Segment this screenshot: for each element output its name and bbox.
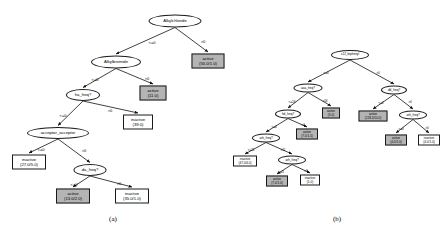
tree-edge: [266, 143, 292, 155]
tree-leaf-active[interactable]: active(11.0): [140, 86, 167, 101]
tree-leaf-inactive[interactable]: inactive(35.0/1.0): [115, 189, 149, 204]
tree-leaf-inactive[interactable]: inactive(47.0/4.0): [233, 156, 257, 167]
node-label: arh_freq?: [406, 113, 419, 116]
edge-label: >4: [301, 123, 304, 127]
node-label: c12_biphenyl: [341, 53, 359, 56]
tree-leaf-active[interactable]: active(3.0): [322, 108, 340, 119]
leaf-counts: (4.0/1.0): [423, 140, 435, 143]
tree-leaf-active[interactable]: active(7.0/1.0): [266, 176, 288, 187]
edge-label: >0: [201, 39, 206, 44]
leaf-counts: (39.0): [133, 122, 144, 126]
node-label: da_freq?: [82, 168, 99, 172]
tree-node-alkylchloride[interactable]: Alkylchloride: [149, 15, 202, 28]
leaf-counts: (5.0): [307, 180, 313, 183]
tree-edge: [90, 176, 132, 187]
edge-label: >3: [304, 169, 307, 173]
tree-leaf-active[interactable]: active(55.0/1.0): [192, 54, 225, 69]
edge-label: <=0: [38, 147, 45, 152]
edge-label: <=4: [271, 125, 276, 129]
tree-leaf-active[interactable]: active(4.0/1.0): [385, 135, 407, 146]
node-label: hd_freq?: [282, 112, 294, 115]
leaf-counts: (7.0/1.0): [271, 181, 283, 184]
edge-label: <=0: [92, 77, 99, 82]
node-label: ha_freq?: [75, 93, 92, 97]
node-label: dd_freq?: [388, 88, 400, 91]
tree-leaf-active[interactable]: active(13.0/2.0): [56, 189, 90, 204]
leaf-counts: (13.0/2.0): [64, 196, 82, 200]
tree-leaf-inactive[interactable]: inactive(5.0): [300, 175, 320, 186]
edge-label: <=11: [248, 148, 255, 152]
tree-node-acceptor-acceptor[interactable]: acceptor_acceptor: [27, 127, 89, 139]
tree-edge: [266, 119, 288, 133]
leaf-counts: (128.0/14.0): [365, 116, 382, 119]
tree-leaf-active[interactable]: active(7.0/1.0): [296, 129, 318, 140]
leaf-counts: (27.0/5.0): [20, 162, 38, 166]
tree-leaf-inactive[interactable]: inactive(39.0): [123, 115, 153, 130]
tree-leaf-inactive[interactable]: inactive(27.0/5.0): [12, 155, 46, 170]
edge-label: >0: [376, 71, 379, 75]
edge-label: >0: [145, 76, 150, 81]
tree-node-da-freq-[interactable]: da_freq?: [74, 164, 107, 176]
tree-edge: [350, 60, 394, 84]
tree-node-arh-freq-[interactable]: arh_freq?: [252, 134, 280, 143]
figure-caption-a: (a): [109, 215, 117, 223]
node-label: arh_freq?: [259, 136, 272, 139]
edge-label: <=2: [378, 101, 383, 105]
tree-node-alkylbromide[interactable]: Alkylbromide: [91, 56, 141, 69]
tree-node-dd-freq-[interactable]: dd_freq?: [381, 86, 407, 95]
tree-leaf-active[interactable]: active(128.0/14.0): [359, 111, 388, 122]
leaf-counts: (11.0): [148, 93, 159, 97]
edge-label: <=0: [71, 182, 78, 187]
edge-label: >0: [108, 108, 113, 113]
node-label: Alkylchloride: [163, 19, 187, 23]
edge-label: >11: [281, 148, 286, 152]
leaf-counts: (35.0/1.0): [123, 196, 141, 200]
edge-label: <=3: [278, 170, 283, 174]
leaf-counts: (55.0/1.0): [199, 61, 217, 65]
edge-label: <=24: [289, 100, 296, 104]
edge-label: >0: [425, 126, 428, 130]
tree-node-arh-freq-[interactable]: arh_freq?: [399, 111, 427, 120]
edge-label: <=0: [398, 127, 403, 131]
leaf-counts: (7.0/1.0): [301, 134, 313, 137]
edge-label: <=0: [60, 113, 67, 118]
edge-label: <=0: [149, 40, 156, 45]
figure-canvas: AlkylchlorideAlkylbromideha_freq?accepto…: [0, 0, 448, 236]
tree-node-arh-freq-[interactable]: arh_freq?: [278, 156, 306, 165]
tree-node-ha-freq-[interactable]: ha_freq?: [66, 89, 100, 101]
edge-label: >0: [82, 148, 87, 153]
tree-edge: [308, 93, 331, 107]
tree-node-c12-biphenyl[interactable]: c12_biphenyl: [331, 50, 369, 60]
node-label: aaa_freq?: [301, 86, 315, 89]
leaf-counts: (4.0/1.0): [390, 140, 402, 143]
tree-leaf-inactive[interactable]: inactive(4.0/1.0): [418, 135, 440, 146]
tree-edge: [308, 60, 350, 82]
edge-label: >4: [408, 100, 411, 104]
node-label: Alkylbromide: [104, 60, 128, 64]
tree-node-hd-freq-[interactable]: hd_freq?: [275, 110, 301, 119]
node-label: arh_freq?: [285, 158, 298, 161]
edge-label: >24: [322, 99, 327, 103]
edge-label: >0: [117, 181, 122, 186]
leaf-counts: (47.0/4.0): [238, 161, 251, 164]
edge-label: <=0: [323, 71, 328, 75]
tree-node-aaa-freq-[interactable]: aaa_freq?: [294, 84, 323, 93]
tree-edge: [116, 28, 175, 55]
node-label: acceptor_acceptor: [41, 131, 75, 135]
figure-caption-b: (b): [333, 215, 341, 223]
tree-edge: [83, 69, 116, 88]
leaf-counts: (3.0): [328, 113, 334, 116]
